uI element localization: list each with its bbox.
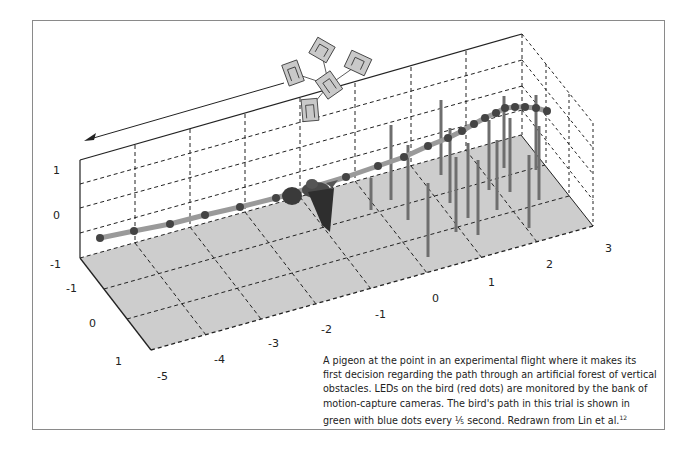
x-tick: 1: [488, 277, 495, 288]
x-tick: 2: [546, 259, 553, 270]
y-tick: 0: [89, 318, 96, 329]
x-tick: -1: [375, 309, 386, 320]
camera-icon: [309, 37, 335, 63]
camera-icon: [282, 60, 305, 86]
x-tick: -2: [321, 324, 332, 335]
camera-icon: [301, 98, 319, 121]
y-tick: 1: [115, 356, 122, 367]
z-tick: 0: [53, 210, 60, 221]
x-tick: -3: [268, 338, 279, 349]
motion-capture-cameras: [282, 37, 372, 121]
z-tick: 1: [53, 165, 60, 176]
x-tick: 0: [432, 293, 439, 304]
x-tick: -4: [214, 354, 225, 365]
x-tick: 3: [605, 243, 612, 254]
camera-icon: [315, 71, 342, 99]
floor-plane: [80, 135, 593, 350]
citation-superscript: 12: [619, 414, 627, 421]
figure-caption: A pigeon at the point in an experimental…: [323, 354, 658, 428]
camera-icon: [344, 50, 372, 76]
y-tick: -1: [66, 283, 77, 294]
x-tick: -5: [157, 371, 168, 382]
z-tick: -1: [50, 259, 61, 270]
arrow-left-icon: [84, 34, 522, 141]
caption-text: A pigeon at the point in an experimental…: [323, 355, 657, 426]
